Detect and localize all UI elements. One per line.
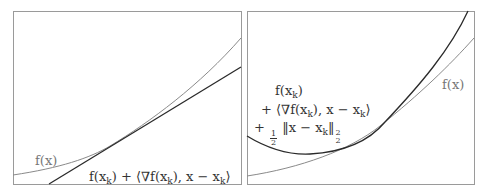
norm-sub: 2: [336, 137, 341, 145]
norm-part: ‖x − x: [282, 120, 322, 135]
diagram-canvas: [0, 0, 490, 196]
tangent-label-part: ), x − x: [173, 169, 220, 184]
right-function-label: f(x): [442, 78, 464, 91]
one-half-fraction: 12: [270, 130, 277, 147]
norm-close: ‖: [328, 120, 335, 135]
norm-exponent: 22: [336, 129, 341, 145]
left-function-label-text: f(x): [35, 153, 57, 168]
left-tangent-label: f(xk) + ⟨∇f(xk), x − xk⟩: [89, 170, 230, 186]
model-line-2-part: ⟩: [366, 102, 371, 117]
model-line-1-part: ): [298, 83, 303, 98]
model-line-1-part: f(x: [275, 83, 292, 98]
model-line-1: f(xk): [275, 84, 303, 100]
left-tangent-line: [49, 67, 241, 184]
tangent-label-part: ) + ⟨∇f(x: [112, 169, 168, 184]
right-function-label-text: f(x): [442, 77, 464, 92]
tangent-label-part: f(x: [89, 169, 106, 184]
model-line-2: + ⟨∇f(xk), x − xk⟩: [261, 103, 371, 119]
model-line-3-plus: +: [254, 120, 265, 135]
model-line-2-part: ), x − x: [313, 102, 360, 117]
left-function-label: f(x): [35, 154, 57, 167]
fraction-denominator: 2: [271, 139, 276, 147]
model-line-3: + 12 ‖x − xk‖22: [254, 121, 341, 147]
tangent-label-part: ⟩: [225, 169, 230, 184]
model-line-2-part: + ⟨∇f(x: [261, 102, 307, 117]
